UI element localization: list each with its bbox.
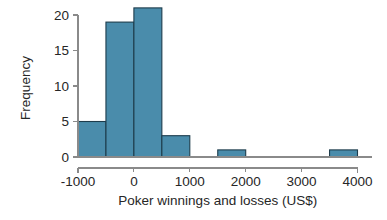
y-tick-label: 10 xyxy=(54,79,69,94)
bars-layer xyxy=(78,8,358,157)
histogram-chart: 05101520-100001000200030004000Poker winn… xyxy=(0,0,387,220)
histogram-bar xyxy=(106,22,134,157)
y-tick-label: 5 xyxy=(61,114,69,129)
histogram-bar xyxy=(134,8,162,157)
histogram-bar xyxy=(218,150,246,157)
x-tick-label: 4000 xyxy=(342,174,372,189)
y-tick-label: 0 xyxy=(61,150,69,165)
histogram-bar xyxy=(78,122,106,158)
histogram-figure: 05101520-100001000200030004000Poker winn… xyxy=(0,0,387,220)
y-axis-title: Frequency xyxy=(18,56,33,120)
x-tick-label: 2000 xyxy=(231,174,261,189)
x-tick-label: 3000 xyxy=(287,174,317,189)
histogram-bar xyxy=(330,150,358,157)
labels-layer: 05101520-100001000200030004000Poker winn… xyxy=(18,8,373,208)
x-axis-title: Poker winnings and losses (US$) xyxy=(118,193,317,208)
x-tick-label: -1000 xyxy=(61,174,96,189)
x-tick-label: 0 xyxy=(130,174,138,189)
x-tick-label: 1000 xyxy=(175,174,205,189)
y-tick-label: 20 xyxy=(54,8,69,23)
histogram-bar xyxy=(162,136,190,157)
y-tick-label: 15 xyxy=(54,43,69,58)
